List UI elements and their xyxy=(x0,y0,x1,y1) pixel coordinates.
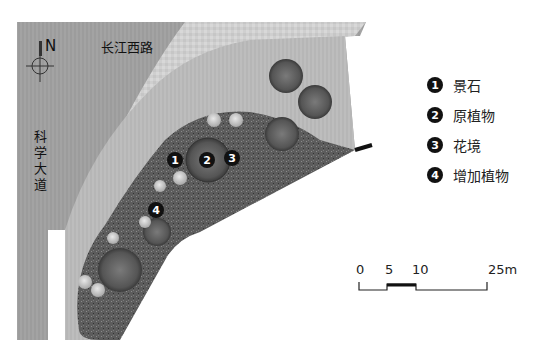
legend-label: 花境 xyxy=(453,135,481,155)
legend-item: 4 增加植物 xyxy=(427,160,509,190)
legend-number-icon: 3 xyxy=(427,137,443,153)
legend-item: 1 景石 xyxy=(427,70,509,100)
legend-label: 增加植物 xyxy=(453,165,509,185)
road-label-top: 长江西路 xyxy=(101,37,153,56)
legend-number-icon: 1 xyxy=(427,77,443,93)
legend-number-icon: 4 xyxy=(427,167,443,183)
marker-4: 4 xyxy=(148,202,164,218)
north-label: N xyxy=(45,37,56,55)
marker-2: 2 xyxy=(199,152,215,168)
edge-line xyxy=(355,145,372,150)
legend-item: 2 原植物 xyxy=(427,100,509,130)
marker-1: 1 xyxy=(167,152,183,168)
scale-bar: 0 5 10 25m xyxy=(356,262,506,302)
legend: 1 景石 2 原植物 3 花境 4 增加植物 xyxy=(427,70,509,190)
legend-label: 景石 xyxy=(453,75,481,95)
legend-label: 原植物 xyxy=(453,105,495,125)
legend-number-icon: 2 xyxy=(427,107,443,123)
scale-bar-graphic xyxy=(356,262,506,302)
road-label-left: 科学大道 xyxy=(30,130,49,194)
road-gap xyxy=(48,230,65,340)
marker-3: 3 xyxy=(224,150,240,166)
legend-item: 3 花境 xyxy=(427,130,509,160)
